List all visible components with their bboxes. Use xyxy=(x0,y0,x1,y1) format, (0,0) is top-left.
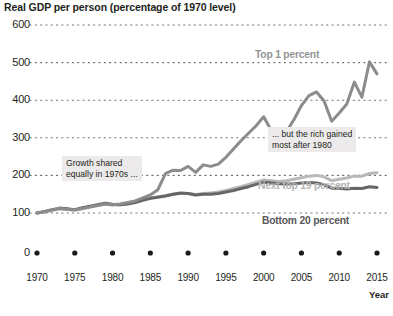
chart-plot-area xyxy=(0,0,393,316)
series-label-bottom-20-percent: Bottom 20 percent xyxy=(262,215,349,226)
x-axis-tick-label: 2005 xyxy=(281,272,321,283)
y-axis-tick-label: 100 xyxy=(0,206,30,218)
x-axis-tick-dot xyxy=(186,250,191,255)
x-axis-tick-label: 1980 xyxy=(93,272,133,283)
x-axis-tick-dot xyxy=(72,250,77,255)
x-axis-tick-dot xyxy=(34,250,39,255)
x-axis-tick-label: 2010 xyxy=(319,272,359,283)
chart-container: Real GDP per person (percentage of 1970 … xyxy=(0,0,393,316)
x-axis-tick-label: 2015 xyxy=(357,272,393,283)
x-axis-tick-label: 1995 xyxy=(206,272,246,283)
x-axis-tick-label: 1990 xyxy=(168,272,208,283)
x-axis-tick-dot xyxy=(110,250,115,255)
x-axis-tick-dot xyxy=(337,250,342,255)
series-label-top-1-percent: Top 1 percent xyxy=(255,49,319,60)
series-label-next-top-19-percent: Next top 19 percent xyxy=(258,180,350,191)
x-axis-tick-dot xyxy=(261,250,266,255)
x-axis-tick-dots xyxy=(34,250,379,255)
y-axis-tick-label: 200 xyxy=(0,168,30,180)
x-axis-label: Year xyxy=(369,289,389,300)
y-axis-tick-label: 0 xyxy=(0,246,30,258)
x-axis-tick-label: 1985 xyxy=(130,272,170,283)
annotation-rich-gained: ... but the rich gained most after 1980 xyxy=(268,127,356,152)
y-axis-tick-label: 300 xyxy=(0,131,30,143)
x-axis-tick-dot xyxy=(299,250,304,255)
x-axis-tick-dot xyxy=(374,250,379,255)
y-axis-tick-label: 600 xyxy=(0,18,30,30)
y-axis-tick-label: 400 xyxy=(0,93,30,105)
x-axis-tick-dot xyxy=(223,250,228,255)
x-axis-tick-label: 1975 xyxy=(55,272,95,283)
x-axis-tick-dot xyxy=(148,250,153,255)
annotation-growth-shared: Growth shared equally in 1970s ... xyxy=(62,156,142,181)
y-axis-tick-label: 500 xyxy=(0,56,30,68)
x-axis-tick-label: 1970 xyxy=(17,272,57,283)
x-axis-tick-label: 2000 xyxy=(244,272,284,283)
